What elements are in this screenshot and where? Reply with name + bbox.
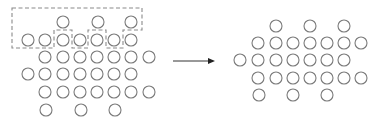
left-lattice-circle — [108, 51, 120, 63]
left-lattice-circle — [92, 16, 104, 28]
right-lattice-circle — [355, 37, 367, 49]
right-lattice-circle — [287, 37, 299, 49]
right-lattice-circle — [338, 72, 350, 84]
right-lattice-circle — [304, 54, 316, 66]
left-lattice-circle — [91, 68, 103, 80]
left-lattice-circle — [143, 86, 155, 98]
right-lattice-circle — [270, 37, 282, 49]
left-lattice-circle — [40, 104, 52, 116]
right-lattice-circle — [304, 72, 316, 84]
lattice-transformation-diagram — [0, 0, 378, 120]
left-lattice-circle — [125, 16, 137, 28]
left-lattice-circle — [57, 51, 69, 63]
left-lattice-circle — [74, 51, 86, 63]
left-lattice-circle — [91, 86, 103, 98]
left-lattice-circle — [74, 68, 86, 80]
left-lattice-circle — [143, 51, 155, 63]
left-lattice-circle — [108, 34, 120, 46]
right-lattice-circle — [234, 54, 246, 66]
left-lattice-circle — [125, 51, 137, 63]
left-lattice-circle — [74, 86, 86, 98]
right-circle-lattice — [234, 20, 367, 101]
right-lattice-circle — [321, 72, 333, 84]
left-lattice-circle — [39, 34, 51, 46]
right-lattice-circle — [338, 37, 350, 49]
left-lattice-circle — [57, 16, 69, 28]
left-lattice-circle — [109, 104, 121, 116]
right-lattice-circle — [270, 20, 282, 32]
right-lattice-circle — [287, 89, 299, 101]
left-lattice-circle — [39, 68, 51, 80]
left-lattice-circle — [125, 34, 137, 46]
right-lattice-circle — [304, 37, 316, 49]
left-lattice-circle — [74, 34, 86, 46]
right-lattice-circle — [252, 37, 264, 49]
right-lattice-circle — [304, 20, 316, 32]
right-lattice-circle — [338, 54, 350, 66]
left-lattice-circle — [22, 68, 34, 80]
left-lattice-circle — [39, 51, 51, 63]
right-lattice-circle — [270, 72, 282, 84]
left-lattice-circle — [91, 51, 103, 63]
right-lattice-circle — [287, 54, 299, 66]
arrow-head — [208, 58, 215, 64]
right-arrow-icon — [173, 58, 215, 64]
right-lattice-circle — [338, 20, 350, 32]
right-lattice-circle — [252, 54, 264, 66]
right-lattice-circle — [253, 89, 265, 101]
left-lattice-circle — [57, 86, 69, 98]
left-lattice-circle — [108, 86, 120, 98]
right-lattice-circle — [287, 72, 299, 84]
left-lattice-circle — [125, 68, 137, 80]
right-lattice-circle — [321, 54, 333, 66]
right-lattice-circle — [252, 72, 264, 84]
left-lattice-circle — [39, 86, 51, 98]
right-lattice-circle — [355, 72, 367, 84]
right-lattice-circle — [321, 89, 333, 101]
left-lattice-circle — [75, 104, 87, 116]
right-lattice-circle — [321, 37, 333, 49]
right-lattice-circle — [270, 54, 282, 66]
left-lattice-circle — [57, 34, 69, 46]
left-lattice-circle — [91, 34, 103, 46]
left-lattice-circle — [57, 68, 69, 80]
left-lattice-circle — [108, 68, 120, 80]
left-lattice-circle — [125, 86, 137, 98]
left-lattice-circle — [22, 34, 34, 46]
